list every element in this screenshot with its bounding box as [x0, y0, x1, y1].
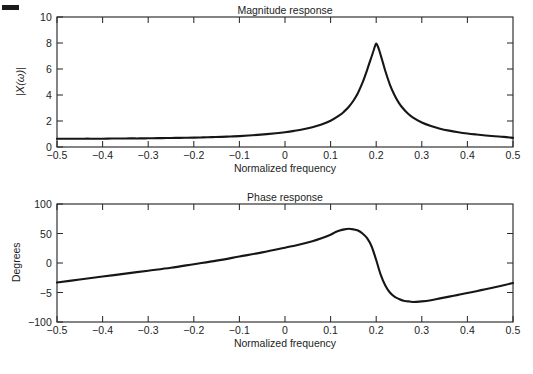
magnitude-xtick-8: 0.3: [414, 150, 429, 161]
phase-xtick-8: 0.3: [414, 325, 429, 336]
magnitude-xtick-5: 0: [282, 150, 288, 161]
magnitude-xtick-4: −0.1: [229, 150, 250, 161]
phase-xtick-7: 0.2: [369, 325, 384, 336]
magnitude-xtick-1: −0.4: [92, 150, 113, 161]
phase-ytick-4: 100: [18, 199, 52, 210]
magnitude-xtick-9: 0.4: [460, 150, 475, 161]
phase-xtick-4: −0.1: [229, 325, 250, 336]
phase-ytick-2: 0: [18, 258, 52, 269]
phase-xtick-9: 0.4: [460, 325, 475, 336]
magnitude-ytick-1: 2: [32, 116, 52, 127]
magnitude-x-ticks: [57, 17, 513, 147]
phase-response-curve: [57, 229, 513, 302]
magnitude-axis-frame: [57, 17, 513, 147]
phase-xtick-2: −0.3: [138, 325, 159, 336]
magnitude-y-ticks: [57, 17, 513, 147]
phase-x-axis-title: Normalized frequency: [234, 338, 336, 349]
phase-ytick-1: −5: [18, 287, 52, 298]
magnitude-response-curve: [57, 44, 513, 139]
phase-response-panel: Phase response: [0, 187, 533, 374]
magnitude-xtick-2: −0.3: [138, 150, 159, 161]
magnitude-ytick-0: 0: [32, 142, 52, 153]
phase-ytick-3: 50: [18, 228, 52, 239]
phase-xtick-1: −0.4: [92, 325, 113, 336]
phase-y-axis-title: Degrees: [11, 232, 22, 292]
figure-container: Magnitude response: [0, 0, 533, 374]
phase-x-ticks: [57, 204, 513, 322]
phase-xtick-3: −0.2: [183, 325, 204, 336]
magnitude-xtick-6: 0.1: [323, 150, 338, 161]
magnitude-plot-canvas: [0, 0, 533, 187]
magnitude-xtick-3: −0.2: [183, 150, 204, 161]
phase-xtick-6: 0.1: [323, 325, 338, 336]
magnitude-y-axis-title: |X(ω)|: [15, 52, 26, 112]
magnitude-ytick-5: 10: [32, 12, 52, 23]
phase-axis-frame: [57, 204, 513, 322]
magnitude-ytick-4: 8: [32, 38, 52, 49]
magnitude-ytick-2: 4: [32, 90, 52, 101]
magnitude-response-panel: Magnitude response: [0, 0, 533, 187]
phase-xtick-5: 0: [282, 325, 288, 336]
phase-ytick-0: −100: [18, 317, 52, 328]
phase-y-ticks: [57, 204, 513, 322]
magnitude-xtick-7: 0.2: [369, 150, 384, 161]
magnitude-x-axis-title: Normalized frequency: [234, 163, 336, 174]
magnitude-xtick-10: 0.5: [506, 150, 521, 161]
phase-xtick-10: 0.5: [506, 325, 521, 336]
magnitude-ytick-3: 6: [32, 64, 52, 75]
